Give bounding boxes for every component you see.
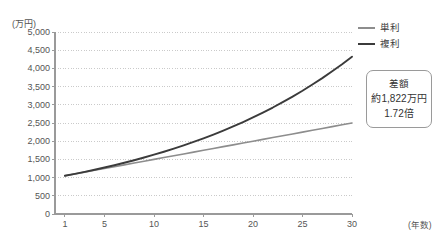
difference-callout-box: 差額 約1,822万円 1.72倍 (366, 70, 432, 128)
callout-ratio: 1.72倍 (369, 106, 429, 121)
legend-label-compound-interest: 複利 (380, 37, 400, 50)
callout-amount: 約1,822万円 (369, 91, 429, 106)
x-axis-tick-label: 25 (297, 219, 307, 229)
x-axis-tick-label: 10 (149, 219, 159, 229)
chart-legend: 単利 複利 (358, 21, 436, 53)
series-line-compound-interest (65, 57, 352, 176)
x-axis-tick-label: 15 (198, 219, 208, 229)
series-line-simple-interest (65, 123, 352, 176)
legend-label-simple-interest: 単利 (380, 21, 400, 34)
legend-swatch-compound-interest (358, 43, 375, 45)
legend-swatch-simple-interest (358, 27, 375, 29)
x-axis-tick-label: 5 (102, 219, 107, 229)
interest-comparison-chart: (万円) 5,0004,5004,0003,5003,0002,5002,000… (0, 0, 441, 242)
callout-title: 差額 (369, 76, 429, 91)
legend-item-compound-interest: 複利 (358, 37, 436, 50)
x-axis-tick-label: 30 (347, 219, 357, 229)
x-axis-tick-label: 20 (248, 219, 258, 229)
x-axis-unit-label: (年数) (408, 218, 432, 230)
legend-item-simple-interest: 単利 (358, 21, 436, 34)
x-axis-tick-label: 1 (62, 219, 67, 229)
